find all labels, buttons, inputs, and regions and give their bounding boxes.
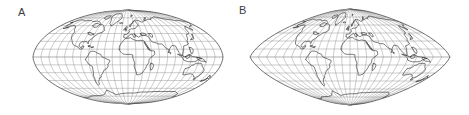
coastline-path [412, 47, 417, 53]
coastline-path [63, 20, 105, 49]
coastline-path [170, 52, 171, 54]
coastline-path [120, 23, 123, 24]
coastline-path [189, 48, 193, 54]
coastline-path [416, 79, 424, 82]
coastline-path [91, 47, 93, 48]
coastline-path [150, 63, 154, 70]
coastlines-group [293, 13, 430, 99]
panel-a-label: A [18, 6, 26, 18]
coastline-path [119, 38, 155, 75]
coastline-path [352, 14, 353, 15]
projection-comparison-figure: A B [0, 0, 469, 115]
coastline-path [88, 46, 90, 47]
coastline-path [422, 58, 430, 63]
coastline-path [346, 28, 348, 30]
panel-b: B [234, 0, 469, 115]
coastline-path [88, 32, 94, 35]
panel-a: A [0, 0, 235, 115]
coastline-path [372, 63, 376, 70]
coastline-path [362, 16, 363, 19]
map-b [234, 0, 469, 115]
coastline-path [183, 63, 204, 77]
coastline-path [310, 45, 312, 46]
coastline-path [193, 78, 195, 79]
coastline-path [293, 19, 329, 49]
coastline-path [313, 46, 315, 47]
coastline-path [131, 15, 133, 16]
coastline-path [402, 63, 425, 77]
coastline-path [343, 22, 346, 23]
map-a [0, 0, 235, 115]
coastline-path [393, 52, 394, 54]
coastline-path [144, 17, 146, 20]
panel-b-label: B [239, 4, 247, 16]
coastline-path [149, 34, 153, 38]
coastline-path [124, 28, 126, 30]
